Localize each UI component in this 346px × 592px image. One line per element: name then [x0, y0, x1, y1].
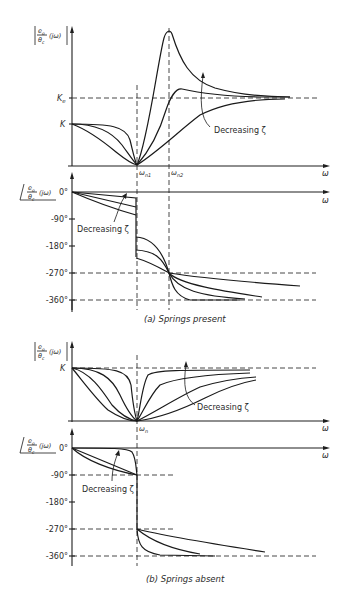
panel-b-magnitude-y-arrow-icon — [70, 341, 74, 348]
svg-text:θc: θc — [38, 36, 45, 45]
svg-text:θc: θc — [28, 446, 35, 455]
panel-b-phase-annotation: Decreasing ζ — [82, 485, 134, 494]
panel-b-magnitude-ylabel: eo θc (jω) — [35, 342, 67, 361]
panel-a-phase-ylabel: eo θc (jω) — [20, 184, 56, 202]
svg-text:(jω): (jω) — [39, 442, 51, 450]
panel-a-phase-tick-180: -180° — [46, 242, 68, 251]
panel-a-magnitude-ylabel: eo θc (jω) — [35, 26, 67, 45]
panel-b-magnitude-curves — [72, 368, 256, 421]
panel-b-magnitude-xlabel: ω — [322, 424, 329, 433]
panel-b-phase-curves — [72, 448, 265, 556]
panel-b-magnitude-annotation-arrow-icon — [185, 365, 195, 405]
panel-b-phase-tick-180: -180° — [46, 498, 68, 507]
frequency-response-figure: eo θc (jω) ω Ke K ωn1 ωn2 — [0, 0, 346, 592]
panel-a-magnitude-x-arrow-icon — [323, 164, 330, 168]
panel-b-phase-tick-90: -90° — [51, 471, 68, 480]
panel-b-caption: (b) Springs absent — [146, 574, 225, 584]
panel-b-phase-x-arrow-icon — [323, 446, 330, 450]
panel-a-caption: (a) Springs present — [144, 314, 226, 324]
svg-text:eo: eo — [38, 27, 45, 36]
panel-a-tick-k: K — [60, 120, 66, 129]
panel-b-omega-n-label: ωn — [139, 425, 148, 434]
svg-text:(jω): (jω) — [49, 348, 61, 356]
panel-a-phase-xlabel: ω — [322, 196, 329, 205]
panel-a-magnitude-annotation: Decreasing ζ — [214, 126, 266, 135]
panel-a-tick-ke: Ke — [57, 94, 66, 104]
panel-a-phase-plot: eo θc (jω) ω 0° -90° -180° -270° -360° — [20, 172, 330, 312]
panel-a-magnitude-y-arrow-icon — [70, 26, 74, 33]
panel-b-magnitude-annotation: Decreasing ζ — [197, 403, 249, 412]
svg-text:eo: eo — [28, 184, 35, 193]
svg-text:(jω): (jω) — [39, 189, 51, 197]
panel-b-magnitude-x-arrow-icon — [323, 419, 330, 423]
panel-a-phase-tick-0: 0° — [59, 188, 68, 197]
svg-text:(jω): (jω) — [49, 32, 61, 40]
svg-text:θc: θc — [28, 193, 35, 202]
panel-b-phase-tick-270: -270° — [46, 525, 68, 534]
panel-b-phase-plot: eo θc (jω) ω 0° -90° -180° -270° -360° — [20, 428, 330, 566]
panel-a-phase-annotation: Decreasing ζ — [77, 225, 129, 234]
panel-a-phase-tick-360: -360° — [46, 296, 68, 305]
svg-text:eo: eo — [28, 437, 35, 446]
panel-a-magnitude-plot: eo θc (jω) ω Ke K ωn1 ωn2 — [35, 26, 330, 310]
panel-b-tick-k: K — [60, 364, 66, 373]
panel-b-phase-xlabel: ω — [322, 451, 329, 460]
panel-b-phase-y-arrow-icon — [70, 428, 74, 435]
svg-text:eo: eo — [38, 343, 45, 352]
panel-a-omega-n1-label: ωn1 — [139, 169, 151, 178]
panel-b-phase-ylabel: eo θc (jω) — [20, 437, 56, 455]
svg-text:θc: θc — [38, 352, 45, 361]
panel-b-phase-tick-0: 0° — [59, 444, 68, 453]
panel-a-phase-tick-90: -90° — [51, 215, 68, 224]
panel-a-omega-n2-label: ωn2 — [171, 169, 183, 178]
panel-a-phase-x-arrow-icon — [323, 190, 330, 194]
panel-a-phase-curves — [72, 192, 300, 300]
panel-a-magnitude-xlabel: ω — [322, 169, 329, 178]
panel-a-phase-tick-270: -270° — [46, 269, 68, 278]
panel-b-phase-tick-360: -360° — [46, 552, 68, 561]
panel-a-phase-y-arrow-icon — [70, 172, 74, 179]
